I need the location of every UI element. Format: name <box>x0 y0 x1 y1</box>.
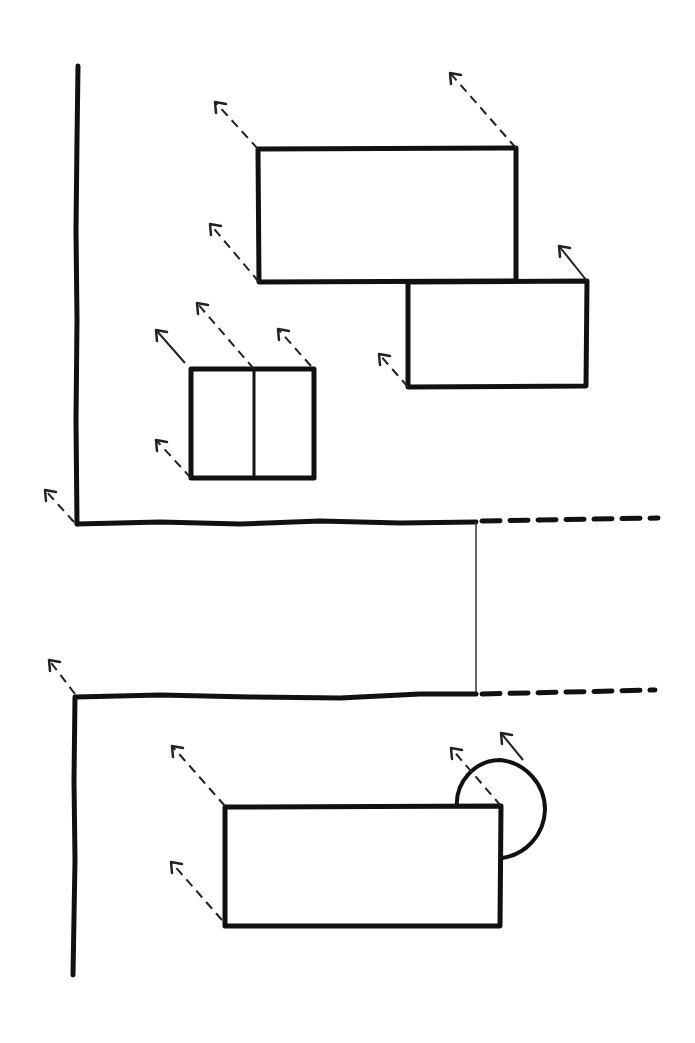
leader-arrow <box>197 303 254 369</box>
right-rectangle <box>408 281 587 387</box>
leader-arrow <box>156 330 185 363</box>
leader-arrow <box>501 733 523 760</box>
leader-arrow <box>278 329 311 366</box>
sketch-diagram <box>0 0 695 1043</box>
lower-left-wall <box>73 697 75 975</box>
lower-top-wall <box>76 694 476 698</box>
leader-arrow <box>215 102 258 149</box>
upper-bottom-wall <box>77 521 476 524</box>
leader-arrow <box>171 862 222 920</box>
lower-wall-section <box>73 690 655 975</box>
leader-arrow <box>156 440 191 478</box>
leader-arrow <box>210 224 259 282</box>
lower-rectangle <box>225 806 501 926</box>
lower-top-wall-dashed <box>482 690 655 694</box>
leader-arrow <box>450 73 516 148</box>
leader-arrow <box>49 660 75 694</box>
leader-arrow <box>559 246 587 281</box>
upper-wall-section <box>76 66 658 524</box>
leader-arrows <box>45 73 587 920</box>
arrowhead-icon <box>49 660 60 671</box>
leader-arrow <box>45 490 74 522</box>
upper-bottom-wall-dashed <box>482 518 658 521</box>
large-rectangle <box>258 148 516 282</box>
leader-arrow <box>172 746 225 806</box>
upper-left-wall <box>76 66 78 524</box>
double-window <box>191 369 314 478</box>
leader-arrow <box>379 354 408 387</box>
